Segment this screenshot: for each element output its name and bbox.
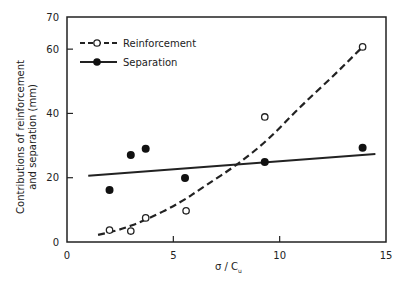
open-circle-data-point bbox=[183, 208, 189, 214]
x-axis-title-sub: u bbox=[238, 267, 242, 274]
svg-text:σ / Cu: σ / Cu bbox=[215, 261, 242, 274]
open-circle-data-point bbox=[142, 215, 148, 221]
reinforcement-fit-curve bbox=[98, 47, 363, 235]
open-circle-marker-icon bbox=[94, 40, 100, 46]
series-separation bbox=[88, 144, 375, 194]
x-axis-title-main: σ / C bbox=[215, 261, 238, 272]
x-tick-label: 5 bbox=[170, 250, 176, 261]
legend-item-reinforcement: Reinforcement bbox=[80, 38, 196, 49]
legend-label-reinforcement: Reinforcement bbox=[123, 38, 196, 49]
legend-item-separation: Separation bbox=[80, 57, 177, 68]
x-tick-label: 10 bbox=[273, 250, 286, 261]
series-layer bbox=[88, 44, 375, 235]
legend: Reinforcement Separation bbox=[80, 38, 196, 68]
y-tick-label: 60 bbox=[46, 44, 59, 55]
chart: 020406070 051015 Contributions of reinfo… bbox=[0, 0, 405, 286]
filled-circle-data-point bbox=[142, 145, 150, 153]
open-circle-data-point bbox=[359, 44, 365, 50]
filled-circle-data-point bbox=[359, 144, 367, 152]
filled-circle-data-point bbox=[181, 174, 189, 182]
open-circle-data-point bbox=[262, 114, 268, 120]
y-axis-title: Contributions of reinforcement and separ… bbox=[15, 60, 38, 214]
plot-frame bbox=[67, 17, 386, 242]
y-tick-label: 20 bbox=[46, 172, 59, 183]
filled-circle-marker-icon bbox=[93, 58, 101, 66]
y-axis-title-line2: and separation (mm) bbox=[27, 84, 38, 190]
x-axis-title: σ / Cu bbox=[215, 261, 242, 274]
x-tick-label: 15 bbox=[380, 250, 393, 261]
open-circle-data-point bbox=[106, 227, 112, 233]
series-reinforcement bbox=[98, 44, 366, 235]
y-axis-title-line1: Contributions of reinforcement bbox=[15, 60, 26, 214]
filled-circle-data-point bbox=[127, 151, 135, 159]
x-axis: 051015 bbox=[64, 236, 393, 261]
filled-circle-data-point bbox=[261, 158, 269, 166]
open-circle-data-point bbox=[128, 228, 134, 234]
x-tick-label: 0 bbox=[64, 250, 70, 261]
legend-label-separation: Separation bbox=[123, 57, 177, 68]
y-tick-label: 40 bbox=[46, 108, 59, 119]
y-tick-label: 0 bbox=[53, 237, 59, 248]
y-tick-label: 70 bbox=[46, 12, 59, 23]
filled-circle-data-point bbox=[106, 186, 114, 194]
y-axis: 020406070 bbox=[46, 12, 73, 248]
